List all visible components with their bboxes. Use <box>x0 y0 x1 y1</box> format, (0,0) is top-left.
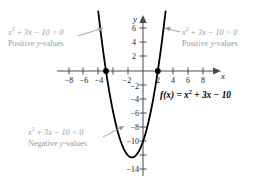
annotation-left-caption-pre: Positive <box>8 39 36 48</box>
y-tick-label: −4 <box>130 95 139 104</box>
x-tick-label: 4 <box>171 76 175 85</box>
annotation-left-rest: + 3x − 10 > 0 <box>14 28 63 37</box>
annotation-bottom-caption: Negative y-values <box>28 139 87 150</box>
annotation-right: x2 + 3x − 10 > 0 Positive y-values <box>182 28 238 49</box>
annotation-right-inequality: x2 + 3x − 10 > 0 <box>182 28 238 39</box>
annotation-left-caption-post: -values <box>40 39 64 48</box>
y-tick-label: −6 <box>130 109 139 118</box>
root-point-left <box>103 68 109 74</box>
y-tick-label: −8 <box>130 123 139 132</box>
x-axis-arrow-icon <box>213 67 221 74</box>
x-axis-label: x <box>220 71 225 81</box>
x-tick-label: −6 <box>80 76 89 85</box>
annotation-left: x2 + 3x − 10 > 0 Positive y-values <box>8 28 64 49</box>
y-tick-label: −10 <box>126 137 139 146</box>
function-label: f(x) = x2 + 3x − 10 <box>160 90 231 100</box>
y-tick-label: 4 <box>132 38 136 47</box>
annotation-left-inequality: x2 + 3x − 10 > 0 <box>8 28 64 39</box>
y-tick-label: 2 <box>132 52 136 61</box>
x-tick-label: 6 <box>186 76 190 85</box>
annotation-right-caption-pre: Positive <box>182 39 210 48</box>
function-label-arg: (x) <box>163 90 174 100</box>
annotation-right-rest: + 3x − 10 > 0 <box>188 28 237 37</box>
annotation-bottom-caption-pre: Negative <box>28 139 60 148</box>
annotation-bottom-caption-post: -values <box>63 139 87 148</box>
x-tick-label: 8 <box>201 76 205 85</box>
annotation-bottom-inequality: x2 + 3x − 10 < 0 <box>28 128 87 139</box>
y-tick-label: 6 <box>132 24 136 33</box>
y-tick-labels: 6 4 2 −2 −4 −6 −8 −10 −14 <box>126 24 139 174</box>
annotation-bottom-rest: + 3x − 10 < 0 <box>34 128 83 137</box>
annotation-left-caption: Positive y-values <box>8 39 64 50</box>
y-tick-label: −14 <box>126 165 139 174</box>
x-tick-label: −8 <box>65 76 74 85</box>
y-tick-label: −2 <box>130 82 139 91</box>
root-point-right <box>155 68 161 74</box>
graph-figure: −8 −6 −4 −2 2 4 6 8 6 4 2 −2 −4 −6 −8 −1… <box>0 0 276 185</box>
annotation-right-caption: Positive y-values <box>182 39 238 50</box>
annotation-right-caption-post: -values <box>214 39 238 48</box>
function-label-rest: + 3x − 10 <box>192 90 231 100</box>
annotation-bottom: x2 + 3x − 10 < 0 Negative y-values <box>28 128 87 149</box>
y-axis-label: y <box>132 14 137 24</box>
function-label-equals: = <box>174 90 184 100</box>
x-tick-label: −4 <box>95 76 104 85</box>
y-axis-arrow-icon <box>139 15 146 23</box>
